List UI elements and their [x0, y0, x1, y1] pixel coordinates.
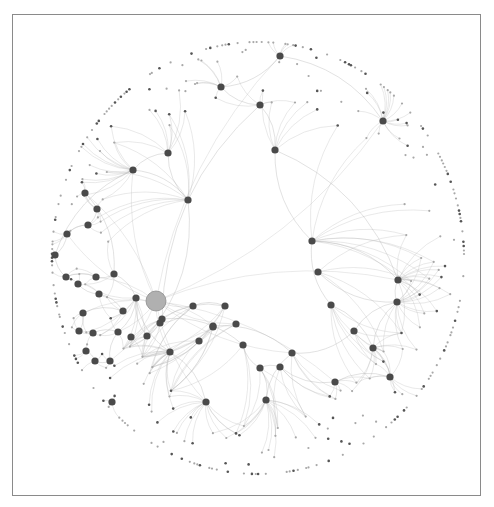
- hub-node: [276, 363, 283, 370]
- edge: [168, 111, 185, 153]
- leaf-node: [150, 442, 152, 444]
- leaf-node: [73, 354, 76, 357]
- leaf-node: [463, 249, 465, 251]
- leaf-node: [181, 457, 184, 460]
- leaf-node: [320, 90, 322, 92]
- leaf-node: [238, 434, 241, 437]
- leaf-node: [294, 101, 296, 103]
- leaf-node: [460, 220, 463, 223]
- leaf-node: [355, 382, 357, 384]
- edge: [275, 150, 398, 280]
- leaf-node: [60, 195, 62, 197]
- leaf-node: [292, 44, 294, 46]
- leaf-node: [148, 109, 150, 111]
- edge: [156, 111, 168, 153]
- leaf-node: [251, 473, 254, 476]
- leaf-node: [289, 470, 291, 472]
- leaf-node: [55, 301, 58, 304]
- leaf-node: [295, 436, 297, 438]
- leaf-node: [436, 310, 439, 313]
- leaf-node: [445, 170, 447, 172]
- hub-node: [271, 146, 278, 153]
- leaf-node: [378, 133, 380, 135]
- leaf-node: [109, 317, 112, 320]
- leaf-node: [196, 463, 198, 465]
- leaf-node: [462, 245, 465, 248]
- hub-node: [158, 315, 165, 322]
- leaf-node: [438, 269, 440, 271]
- leaf-node: [450, 331, 452, 333]
- leaf-node: [52, 231, 54, 233]
- leaf-node: [434, 183, 437, 186]
- edge: [152, 306, 225, 367]
- leaf-node: [86, 136, 88, 138]
- edge: [383, 121, 408, 146]
- leaf-node: [51, 248, 53, 250]
- leaf-node: [407, 124, 409, 126]
- leaf-node: [394, 391, 397, 394]
- edge: [221, 87, 260, 105]
- leaf-node: [261, 452, 263, 454]
- hub-node: [386, 373, 393, 380]
- leaf-node: [404, 154, 406, 156]
- leaf-node: [272, 42, 274, 44]
- leaf-node: [419, 326, 421, 328]
- edge: [398, 262, 434, 280]
- leaf-node: [340, 390, 342, 392]
- leaf-node: [170, 453, 173, 456]
- leaf-node: [117, 98, 119, 100]
- leaf-node: [227, 470, 230, 473]
- leaf-node: [433, 261, 435, 263]
- leaf-node: [404, 203, 406, 205]
- leaf-node: [430, 375, 432, 377]
- edge: [170, 395, 206, 402]
- leaf-node: [212, 432, 214, 434]
- leaf-node: [420, 257, 422, 259]
- leaf-node: [369, 377, 371, 379]
- leaf-node: [71, 165, 73, 167]
- leaf-node: [108, 108, 110, 110]
- hub-node: [81, 189, 88, 196]
- leaf-node: [267, 41, 269, 43]
- leaf-node: [456, 311, 458, 313]
- edge: [168, 114, 172, 153]
- leaf-node: [306, 101, 308, 103]
- hub-node: [95, 290, 102, 297]
- leaf-node: [400, 332, 403, 335]
- leaf-node: [247, 463, 250, 466]
- leaf-node: [102, 198, 104, 200]
- leaf-node: [422, 385, 425, 388]
- leaf-node: [382, 111, 385, 114]
- leaf-node: [124, 422, 126, 424]
- leaf-node: [405, 234, 407, 236]
- hub-node: [288, 349, 295, 356]
- leaf-node: [454, 319, 457, 322]
- leaf-node: [257, 473, 260, 476]
- edge: [85, 193, 114, 274]
- leaf-node: [315, 56, 318, 59]
- leaf-node: [394, 418, 397, 421]
- edge: [354, 302, 397, 331]
- leaf-node: [98, 120, 101, 123]
- leaf-node: [96, 122, 99, 125]
- leaf-node: [70, 278, 73, 281]
- leaf-node: [458, 213, 461, 216]
- leaf-node: [101, 353, 104, 356]
- edge: [110, 332, 118, 361]
- leaf-node: [183, 440, 185, 442]
- leaf-node: [76, 268, 78, 270]
- leaf-node: [302, 46, 304, 48]
- leaf-node: [97, 216, 99, 218]
- leaf-node: [440, 276, 443, 279]
- hub-node: [108, 398, 115, 405]
- leaf-node: [255, 473, 257, 475]
- leaf-node: [436, 364, 438, 366]
- leaf-node: [81, 178, 83, 180]
- leaf-node: [350, 64, 353, 67]
- leaf-node: [245, 49, 247, 51]
- edge: [236, 345, 248, 433]
- edge: [396, 302, 401, 333]
- leaf-node: [344, 61, 347, 64]
- leaf-node: [109, 377, 112, 380]
- leaf-node: [51, 272, 53, 274]
